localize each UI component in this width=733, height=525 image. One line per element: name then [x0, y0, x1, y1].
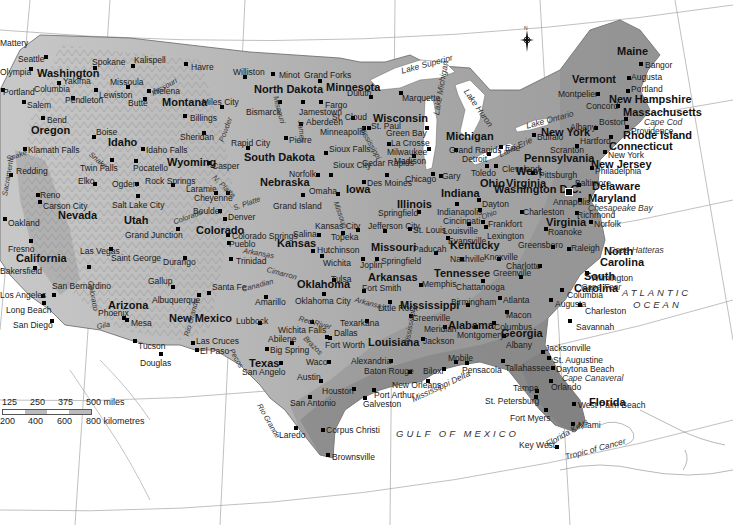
city-label: Houston	[322, 386, 354, 396]
city-label: Orlando	[551, 382, 581, 392]
ocean-label: OCEAN	[633, 300, 682, 310]
city-marker	[385, 173, 389, 177]
city-marker	[375, 257, 379, 261]
city-marker	[38, 200, 42, 204]
city-marker	[319, 100, 323, 104]
state-label: Arizona	[108, 300, 148, 310]
city-label: Reno	[40, 190, 60, 200]
city-label: Olympia	[0, 67, 31, 77]
city-label: Texarkana	[340, 318, 379, 328]
city-marker	[136, 194, 140, 198]
state-label: Washington	[37, 68, 100, 78]
city-label: Columbia	[34, 84, 70, 94]
city-label: Sheridan	[180, 132, 214, 142]
city-marker	[327, 360, 331, 364]
city-marker	[317, 233, 321, 237]
city-marker	[133, 339, 137, 343]
state-label: Arkansas	[368, 272, 418, 282]
state-label: Missouri	[371, 242, 416, 252]
state-label: New York	[541, 127, 590, 137]
compass-rose: N	[517, 24, 537, 54]
city-label: Tallahassee	[505, 363, 550, 373]
city-label: El Paso	[200, 346, 229, 356]
city-marker	[265, 347, 269, 351]
city-marker	[572, 402, 576, 406]
city-marker	[141, 147, 145, 151]
scale-km-800: 800 kilometres	[86, 416, 145, 426]
city-label: Bangor	[645, 60, 672, 70]
city-label: Salem	[27, 100, 51, 110]
state-label: North Dakota	[254, 84, 323, 94]
city-marker	[184, 62, 188, 66]
state-label: Oklahoma	[297, 279, 350, 289]
scale-km-600: 600	[57, 416, 72, 426]
water-feature-label: Cape Hatteras	[609, 245, 664, 255]
city-label: Montpelier	[558, 89, 598, 99]
state-label: Utah	[124, 215, 148, 225]
city-marker	[547, 356, 551, 360]
city-label: Augusta	[631, 72, 662, 82]
city-marker	[487, 152, 491, 156]
city-marker	[271, 72, 275, 76]
city-label: Hutchinson	[317, 245, 360, 255]
city-label: Wichita	[323, 258, 351, 268]
city-label: Greensboro	[518, 240, 563, 250]
state-label: New Mexico	[169, 313, 232, 323]
river-label: James	[295, 120, 307, 143]
state-label: Texas	[249, 358, 279, 368]
city-marker	[110, 158, 114, 162]
city-marker	[555, 445, 559, 449]
state-label: California	[16, 253, 67, 263]
city-label: Frankfort	[488, 219, 522, 229]
city-marker	[498, 296, 502, 300]
city-label: Savannah	[576, 322, 614, 332]
city-label: Austin	[297, 372, 321, 382]
state-label: Massachusetts	[623, 107, 702, 117]
city-marker	[87, 265, 91, 269]
ocean-label: ATLANTIC	[622, 288, 691, 298]
city-marker	[316, 173, 320, 177]
state-label: Kentucky	[450, 240, 500, 250]
city-label: Grand Forks	[304, 70, 351, 80]
city-marker	[191, 341, 195, 345]
scale-km-400: 400	[28, 416, 43, 426]
city-label: Kalispell	[134, 55, 166, 65]
city-label: Pendleton	[65, 95, 103, 105]
city-label: Abilene	[268, 334, 296, 344]
city-label: Miles City	[202, 97, 239, 107]
city-label: Dallas	[334, 328, 358, 338]
city-label: Roanoke	[548, 227, 582, 237]
city-label: Tucson	[138, 341, 166, 351]
state-label: Idaho	[108, 137, 137, 147]
city-label: Elko	[78, 176, 95, 186]
state-label: Iowa	[346, 184, 370, 194]
scale-miles-500: 500 miles	[86, 397, 125, 407]
state-label: Minnesota	[326, 82, 380, 92]
scale-bar	[2, 409, 92, 415]
city-label: Grand Island	[273, 201, 322, 211]
state-label: Delaware	[592, 181, 640, 191]
state-label: Florida	[589, 397, 626, 407]
city-label: Jackson	[423, 336, 454, 346]
city-label: Redding	[16, 166, 48, 176]
city-label: Rapid City	[231, 138, 270, 148]
city-label: Aberdeen	[306, 117, 343, 127]
city-marker	[284, 136, 288, 140]
city-label: Corpus Christi	[326, 425, 380, 435]
city-marker	[484, 225, 488, 229]
city-label: Gary	[442, 171, 460, 181]
state-label: Indiana	[441, 188, 480, 198]
city-label: Baton Rouge	[364, 366, 414, 376]
city-label: Spokane	[92, 57, 126, 67]
water-feature-label: Cape Cod	[644, 117, 682, 127]
city-marker	[195, 348, 199, 352]
city-label: Green Bay	[386, 128, 427, 138]
state-label: Illinois	[397, 199, 432, 209]
city-label: Alexandria	[351, 356, 391, 366]
city-label: Gallup	[148, 276, 173, 286]
city-marker	[532, 133, 536, 137]
city-label: Lubbock	[236, 316, 268, 326]
svg-text:N: N	[524, 25, 528, 31]
city-label: Tampa	[513, 383, 539, 393]
city-marker	[301, 100, 305, 104]
